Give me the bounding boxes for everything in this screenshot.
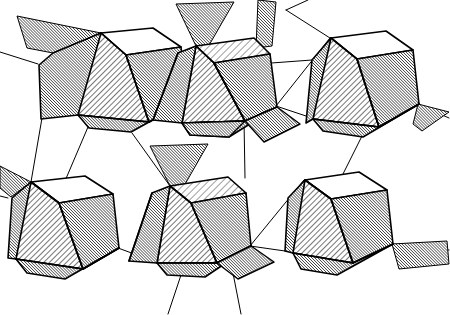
figure-root: Polyhedral crystal structure diagram Cor… [0, 0, 450, 315]
spike-face [392, 241, 449, 269]
structure-diagram: Polyhedral crystal structure diagram Cor… [0, 0, 450, 315]
